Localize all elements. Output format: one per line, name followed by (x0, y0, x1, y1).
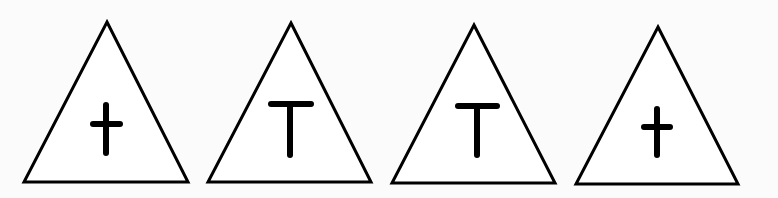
triangle-symbol-figure: † T T † (0, 0, 778, 198)
figure-canvas: † T T † (0, 0, 778, 198)
triangle-4: † (576, 27, 738, 184)
triangle-outline (576, 27, 738, 184)
triangle-2: T (208, 23, 371, 182)
triangle-1: † (24, 22, 188, 182)
triangle-3: T (392, 25, 555, 183)
